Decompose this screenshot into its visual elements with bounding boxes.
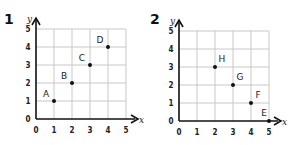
point-label: C <box>79 53 85 63</box>
charts-canvas: 1yx012345012345ABCD2yx012345012345EFGH <box>0 0 299 145</box>
point-label: G <box>237 72 244 82</box>
y-tick-label: 5 <box>168 27 173 36</box>
x-tick-label: 5 <box>123 126 128 135</box>
x-tick-label: 1 <box>194 128 199 137</box>
y-tick-label: 0 <box>168 117 173 126</box>
point-label: A <box>43 89 50 99</box>
point-label: D <box>97 35 104 45</box>
y-tick-label: 3 <box>168 63 173 72</box>
grid <box>179 31 269 121</box>
x-tick-label: 5 <box>266 128 271 137</box>
y-tick-label: 1 <box>168 99 173 108</box>
point-label: H <box>219 54 226 64</box>
x-axis-label: x <box>139 115 144 125</box>
point-label: E <box>261 108 267 118</box>
y-tick-label: 4 <box>168 45 173 54</box>
y-tick-label: 4 <box>25 43 30 52</box>
x-tick-label: 3 <box>230 128 235 137</box>
chart-number: 2 <box>150 11 160 27</box>
x-axis-label: x <box>282 117 287 127</box>
chart-number: 1 <box>4 11 14 27</box>
x-tick-label: 0 <box>176 128 181 137</box>
y-axis-label: y <box>169 16 176 26</box>
x-tick-label: 3 <box>87 126 92 135</box>
x-tick-label: 4 <box>248 128 253 137</box>
y-tick-label: 5 <box>25 25 30 34</box>
x-tick-label: 4 <box>105 126 110 135</box>
point-label: F <box>255 90 260 100</box>
grid <box>36 29 126 119</box>
y-tick-label: 2 <box>25 79 30 88</box>
y-tick-label: 0 <box>25 115 30 124</box>
chart-1: 1yx012345012345ABCD <box>4 11 144 135</box>
point-label: B <box>61 71 67 81</box>
y-tick-label: 2 <box>168 81 173 90</box>
x-tick-label: 0 <box>33 126 38 135</box>
x-tick-label: 2 <box>212 128 217 137</box>
y-tick-label: 3 <box>25 61 30 70</box>
x-tick-label: 2 <box>69 126 74 135</box>
y-tick-label: 1 <box>25 97 30 106</box>
chart-2: 2yx012345012345EFGH <box>150 11 287 137</box>
y-axis-label: y <box>26 14 33 24</box>
x-tick-label: 1 <box>51 126 56 135</box>
